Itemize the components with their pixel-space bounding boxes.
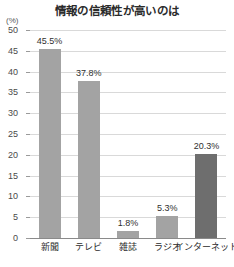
y-axis-tick-label: 50 bbox=[0, 26, 18, 35]
bar-chart: 情報の信頼性が高いのは (%) 5045403530252015105045.5… bbox=[0, 0, 234, 267]
y-axis-tick-mark bbox=[26, 134, 30, 135]
y-axis-tick-mark bbox=[26, 51, 30, 52]
y-axis-tick-mark bbox=[26, 113, 30, 114]
y-axis-unit-label: (%) bbox=[6, 16, 18, 25]
plot-area: 5045403530252015105045.5%37.8%1.8%5.3%20… bbox=[30, 30, 226, 238]
bar bbox=[78, 81, 100, 238]
y-axis-tick-label: 15 bbox=[0, 172, 18, 181]
y-axis-tick-label: 0 bbox=[0, 234, 18, 243]
y-axis-tick-label: 25 bbox=[0, 130, 18, 139]
bar bbox=[195, 154, 217, 238]
y-axis-tick-mark bbox=[26, 196, 30, 197]
bar-value-label: 5.3% bbox=[144, 204, 190, 213]
chart-title: 情報の信頼性が高いのは bbox=[0, 2, 234, 18]
y-axis-tick-mark bbox=[26, 238, 30, 239]
y-axis-tick-label: 10 bbox=[0, 192, 18, 201]
y-axis-tick-mark bbox=[26, 176, 30, 177]
x-axis-category-label: インターネット bbox=[171, 243, 234, 253]
y-axis-tick-label: 30 bbox=[0, 109, 18, 118]
bar bbox=[39, 49, 61, 238]
bar bbox=[156, 216, 178, 238]
bar-value-label: 1.8% bbox=[105, 219, 151, 228]
y-axis-tick-mark bbox=[26, 155, 30, 156]
y-axis-tick-mark bbox=[26, 217, 30, 218]
bar-value-label: 37.8% bbox=[66, 69, 112, 78]
x-axis-baseline bbox=[30, 238, 226, 239]
bar-value-label: 45.5% bbox=[27, 37, 73, 46]
y-axis-tick-mark bbox=[26, 30, 30, 31]
y-axis-tick-mark bbox=[26, 72, 30, 73]
y-axis-tick-label: 35 bbox=[0, 88, 18, 97]
bar-value-label: 20.3% bbox=[183, 142, 229, 151]
y-axis-tick-label: 20 bbox=[0, 151, 18, 160]
y-axis-tick-label: 5 bbox=[0, 213, 18, 222]
gridline bbox=[30, 30, 226, 31]
y-axis-tick-mark bbox=[26, 92, 30, 93]
y-axis-tick-label: 40 bbox=[0, 68, 18, 77]
bar bbox=[117, 231, 139, 238]
y-axis-tick-label: 45 bbox=[0, 47, 18, 56]
